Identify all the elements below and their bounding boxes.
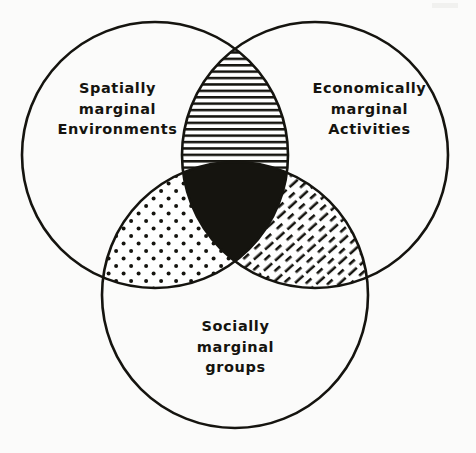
label-economic-line3: Activities (282, 119, 457, 140)
label-spatial-line1: Spatially (30, 78, 205, 99)
label-social-line1: Socially (148, 316, 323, 337)
scan-artifact (432, 3, 458, 8)
label-spatially-marginal-environments: Spatially marginal Environments (30, 78, 205, 140)
label-social-line3: groups (148, 357, 323, 378)
label-spatial-line3: Environments (30, 119, 205, 140)
venn-diagram-canvas (0, 0, 476, 453)
label-economic-line2: marginal (282, 99, 457, 120)
label-economic-line1: Economically (282, 78, 457, 99)
label-social-line2: marginal (148, 337, 323, 358)
venn-diagram-figure: Spatially marginal Environments Economic… (0, 0, 476, 453)
label-socially-marginal-groups: Socially marginal groups (148, 316, 323, 378)
label-spatial-line2: marginal (30, 99, 205, 120)
label-economically-marginal-activities: Economically marginal Activities (282, 78, 457, 140)
